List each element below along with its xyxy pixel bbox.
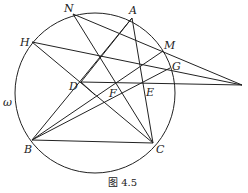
segment-BC — [32, 140, 153, 143]
label-F: F — [108, 87, 117, 100]
label-A: A — [128, 4, 137, 17]
label-G: G — [172, 60, 181, 73]
line-DP — [81, 82, 242, 85]
segment-BG — [32, 68, 170, 140]
label-M: M — [163, 39, 176, 52]
geometry-diagram: N A H M G D F E B C ω 图 4.5 — [0, 0, 248, 193]
label-B: B — [23, 143, 32, 156]
label-N: N — [63, 2, 74, 15]
label-D: D — [68, 80, 78, 93]
label-H: H — [19, 36, 30, 49]
figure-caption: 图 4.5 — [108, 177, 137, 188]
label-omega: ω — [3, 96, 12, 109]
label-E: E — [145, 86, 154, 99]
label-C: C — [156, 143, 165, 156]
segment-CN — [73, 14, 153, 143]
segment-D-tick — [81, 82, 95, 95]
segment-CA — [132, 18, 153, 143]
